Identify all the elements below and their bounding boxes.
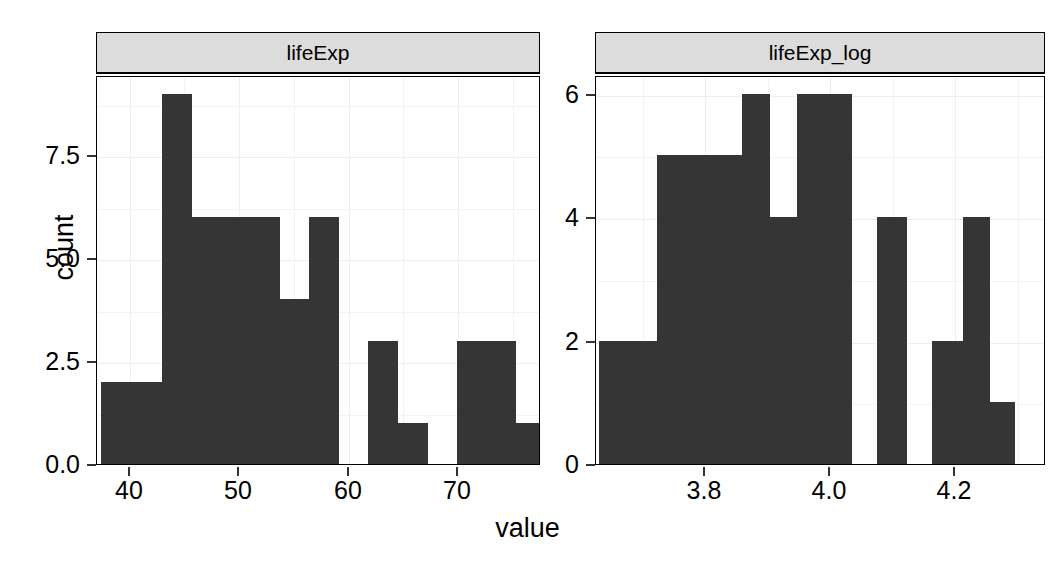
x-axis-tick-label: 60 bbox=[298, 478, 398, 503]
histogram-bar bbox=[457, 341, 516, 464]
histogram-bar bbox=[101, 382, 132, 464]
x-axis-tick bbox=[953, 467, 955, 476]
y-axis-tick bbox=[586, 94, 595, 96]
x-axis-tick bbox=[128, 467, 130, 476]
y-axis-tick bbox=[87, 258, 96, 260]
y-axis-tick-label: 6 bbox=[476, 82, 579, 107]
y-axis-tick bbox=[586, 341, 595, 343]
gridline-vertical bbox=[1018, 77, 1019, 464]
y-axis-tick bbox=[87, 464, 96, 466]
x-axis-tick bbox=[828, 467, 830, 476]
histogram-bar bbox=[132, 382, 162, 464]
histogram-bar bbox=[191, 217, 221, 464]
facet-strip-label: lifeExp bbox=[286, 42, 349, 63]
histogram-bar bbox=[309, 217, 339, 464]
x-axis-tick-label: 3.8 bbox=[654, 478, 754, 503]
chart-root: count lifeExp lifeExp_log 0.02.55.07.540… bbox=[0, 0, 1055, 564]
x-axis-tick bbox=[456, 467, 458, 476]
x-axis-tick-label: 4.2 bbox=[904, 478, 1004, 503]
y-axis-tick bbox=[87, 155, 96, 157]
plot-area-lifeExp-log bbox=[595, 76, 1045, 465]
histogram-bar bbox=[221, 217, 251, 464]
histogram-bar bbox=[657, 155, 742, 464]
x-axis-tick bbox=[347, 467, 349, 476]
histogram-bar bbox=[932, 341, 963, 464]
histogram-bar bbox=[599, 341, 657, 464]
facet-strip-lifeExp: lifeExp bbox=[96, 32, 540, 74]
histogram-bar bbox=[769, 217, 797, 464]
gridline-vertical bbox=[403, 77, 404, 464]
histogram-bar bbox=[398, 423, 428, 464]
histogram-bar bbox=[162, 94, 192, 464]
y-axis-tick-label: 0 bbox=[476, 452, 579, 477]
x-axis-tick-label: 4.0 bbox=[779, 478, 879, 503]
plot-area-lifeExp bbox=[96, 76, 540, 465]
y-axis-tick-label: 4 bbox=[476, 205, 579, 230]
gridline-vertical bbox=[349, 77, 350, 464]
histogram-bar bbox=[797, 94, 852, 464]
y-axis-tick bbox=[586, 217, 595, 219]
x-axis-title: value bbox=[0, 513, 1055, 544]
histogram-bar bbox=[280, 299, 310, 464]
histogram-bar bbox=[742, 94, 770, 464]
y-axis-tick-label: 0.0 bbox=[0, 452, 80, 477]
histogram-bar bbox=[368, 341, 398, 464]
facet-strip-label: lifeExp_log bbox=[769, 42, 872, 63]
x-axis-tick-label: 70 bbox=[407, 478, 507, 503]
x-axis-tick-label: 40 bbox=[79, 478, 179, 503]
histogram-bar bbox=[250, 217, 280, 464]
histogram-bar bbox=[963, 217, 990, 464]
histogram-bar bbox=[877, 217, 907, 464]
y-axis-tick bbox=[586, 464, 595, 466]
y-axis-tick-label: 7.5 bbox=[0, 143, 80, 168]
x-axis-tick bbox=[237, 467, 239, 476]
y-axis-tick bbox=[87, 361, 96, 363]
facet-strip-lifeExp-log: lifeExp_log bbox=[595, 32, 1045, 74]
histogram-bar bbox=[990, 402, 1015, 464]
y-axis-tick-label: 2.5 bbox=[0, 349, 80, 374]
y-axis-tick-label: 5.0 bbox=[0, 246, 80, 271]
x-axis-tick bbox=[703, 467, 705, 476]
x-axis-tick-label: 50 bbox=[188, 478, 288, 503]
y-axis-tick-label: 2 bbox=[476, 329, 579, 354]
